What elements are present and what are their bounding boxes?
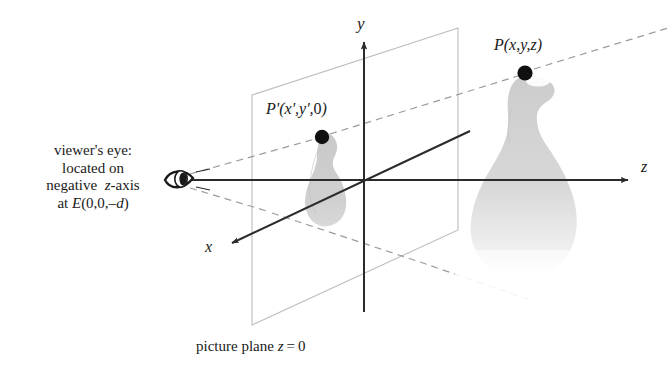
picture-plane [252, 28, 458, 325]
axis-x-line [232, 131, 470, 243]
label-axis-x: x [205, 238, 212, 257]
ray-eye-lower [190, 188, 270, 212]
label-axis-z: z [641, 158, 647, 177]
ray-upper-extension [534, 28, 668, 69]
perspective-projection-figure: viewer's eye: located on negative z-axis… [0, 0, 668, 378]
ray-eye-to-pprime [190, 137, 322, 174]
viewer-caption-line-4: at E(0,0,–d) [18, 195, 168, 213]
label-axis-y: y [357, 14, 365, 34]
viewer-caption-line-3: negative z-axis [18, 177, 168, 195]
viewer-caption-line-1: viewer's eye: [18, 142, 168, 160]
ray-lower-mid [272, 213, 420, 262]
ray-pprime-to-p [330, 76, 518, 134]
label-point-pprime: P'(x',y',0) [266, 100, 327, 119]
label-picture-plane: picture plane z = 0 [196, 338, 305, 356]
world-object-vase [455, 75, 605, 317]
point-pprime-dot [315, 130, 329, 144]
viewer-eye-caption: viewer's eye: located on negative z-axis… [18, 142, 168, 213]
point-p-dot [517, 65, 532, 80]
viewer-caption-line-2: located on [18, 160, 168, 178]
label-point-p: P(x,y,z) [494, 36, 542, 55]
